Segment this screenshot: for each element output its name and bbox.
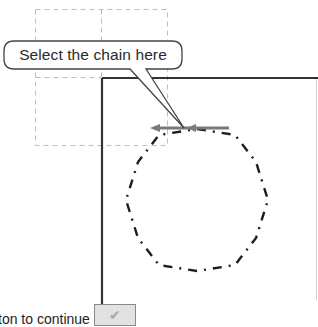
instruction-text: ton to continue	[0, 311, 90, 327]
callout-text: Select the chain here	[4, 41, 182, 69]
ok-button[interactable]: ✔	[94, 304, 136, 326]
part-frame	[102, 78, 318, 304]
checkmark-icon: ✔	[109, 308, 121, 322]
chain-path[interactable]	[126, 129, 268, 271]
